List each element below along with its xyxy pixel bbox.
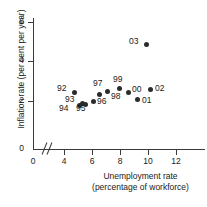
data-point-label-97: 97 (93, 79, 102, 88)
data-point-label-92: 92 (57, 84, 66, 93)
data-point-label-00: 00 (132, 85, 141, 94)
data-point-label-03: 03 (129, 37, 138, 46)
data-point-marker-02 (148, 87, 153, 92)
data-point-marker-97 (97, 92, 102, 97)
data-point-marker-96 (91, 99, 96, 104)
data-point-label-99: 99 (113, 75, 122, 84)
data-point-label-96: 96 (97, 97, 106, 106)
data-point-label-98: 98 (111, 92, 120, 101)
plot-area: 929394959697989900010203 (0, 0, 207, 207)
data-point-marker-98 (105, 89, 110, 94)
data-point-label-95: 95 (76, 104, 85, 113)
data-point-label-02: 02 (155, 84, 164, 93)
scatter-chart: 046810120246 Inflation rate (per cent pe… (0, 0, 207, 207)
data-point-marker-00 (126, 90, 131, 95)
data-point-marker-03 (144, 42, 149, 47)
data-point-marker-99 (117, 86, 122, 91)
data-point-label-94: 94 (59, 104, 68, 113)
data-point-label-01: 01 (142, 96, 151, 105)
data-point-marker-01 (135, 97, 140, 102)
